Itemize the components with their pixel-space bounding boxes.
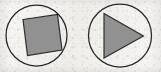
tilted-square-shape — [23, 15, 62, 56]
play-triangle-shape — [104, 14, 144, 59]
icons-svg — [0, 0, 161, 72]
circle-with-tilted-square-icon[interactable] — [6, 5, 67, 66]
icon-canvas — [0, 0, 161, 72]
circle-with-play-triangle-icon[interactable] — [89, 4, 152, 67]
